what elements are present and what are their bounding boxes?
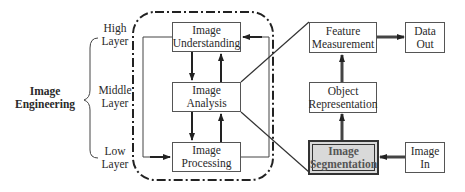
layer-middle-label: Middle Layer bbox=[96, 84, 134, 110]
box-text: Out bbox=[414, 38, 436, 51]
box-text: Representation bbox=[309, 98, 378, 111]
title-line-2: Engineering bbox=[10, 98, 80, 111]
loop-processing-to-understanding bbox=[241, 37, 269, 157]
image-in-box: ImageIn bbox=[405, 142, 445, 173]
box-text: Image bbox=[310, 145, 377, 158]
box-text: Image bbox=[182, 144, 232, 157]
box-text: Image bbox=[411, 145, 440, 158]
layer-middle-line1: Middle bbox=[96, 84, 134, 97]
image-engineering-label: Image Engineering bbox=[10, 85, 80, 111]
box-text: Feature bbox=[312, 25, 375, 38]
image-understanding-box: ImageUnderstanding bbox=[172, 22, 241, 52]
layer-low-line1: Low bbox=[98, 145, 132, 158]
box-text: Segmentation bbox=[310, 158, 377, 171]
box-text: Analysis bbox=[186, 97, 226, 110]
bridge-line-bottom bbox=[241, 112, 309, 172]
box-text: Data bbox=[414, 25, 436, 38]
bridge-line-top bbox=[241, 22, 309, 82]
box-text: Image bbox=[186, 84, 226, 97]
box-text: Measurement bbox=[312, 38, 375, 51]
data-out-box: DataOut bbox=[405, 22, 445, 53]
box-text: Image bbox=[173, 24, 241, 37]
layer-high-label: High Layer bbox=[98, 22, 132, 48]
title-line-1: Image bbox=[10, 85, 80, 98]
layer-low-line2: Layer bbox=[98, 158, 132, 171]
box-text: Processing bbox=[182, 157, 232, 170]
layer-middle-line2: Layer bbox=[96, 97, 134, 110]
box-text: Understanding bbox=[173, 37, 241, 50]
feature-measurement-box: FeatureMeasurement bbox=[309, 22, 377, 53]
layer-high-line1: High bbox=[98, 22, 132, 35]
box-text: In bbox=[411, 158, 440, 171]
image-segmentation-box: ImageSegmentation bbox=[309, 141, 378, 174]
layer-high-line2: Layer bbox=[98, 35, 132, 48]
box-text: Object bbox=[309, 85, 378, 98]
layer-low-label: Low Layer bbox=[98, 145, 132, 171]
image-analysis-box: ImageAnalysis bbox=[172, 82, 241, 112]
image-processing-box: ImageProcessing bbox=[172, 142, 241, 172]
loop-understanding-to-processing bbox=[143, 37, 172, 157]
object-representation-box: ObjectRepresentation bbox=[309, 82, 377, 113]
